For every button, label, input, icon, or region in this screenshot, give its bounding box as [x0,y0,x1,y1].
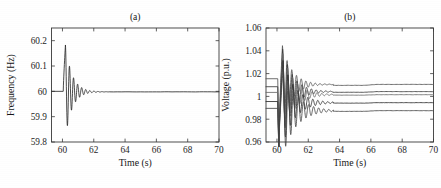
panel-b: (b) 606264666870 0.960.9811.021.041.06 T… [220,11,439,169]
panel-a: (a) 606264666870 59.859.96060.160.2 Time… [5,11,225,169]
y-tick-label: 1 [257,92,262,102]
y-tick-label: 60.2 [31,36,48,46]
x-tick-label: 60 [272,145,282,155]
panel-a-label: (a) [130,11,141,23]
x-tick-label: 64 [335,145,345,155]
panel-b-x-tick-labels: 606264666870 [272,145,438,155]
panel-a-x-axis-title: Time (s) [119,157,152,169]
y-tick-label: 60 [38,87,48,97]
x-tick-label: 66 [152,145,162,155]
figure-two-panel-transient-plots: (a) 606264666870 59.859.96060.160.2 Time… [0,0,441,188]
panel-a-x-ticks [62,28,219,142]
y-tick-label: 0.98 [245,115,262,125]
x-tick-label: 60 [58,145,68,155]
panel-b-x-axis-title: Time (s) [333,157,366,169]
y-tick-label: 1.02 [245,69,262,79]
panel-b-y-tick-labels: 0.960.9811.021.041.06 [245,23,262,147]
x-tick-label: 68 [398,145,408,155]
y-tick-label: 60.1 [31,61,48,71]
y-tick-label: 59.8 [31,137,48,147]
x-tick-label: 70 [214,145,224,155]
panel-b-label: (b) [344,11,355,23]
x-tick-label: 68 [183,145,193,155]
x-tick-label: 64 [120,145,130,155]
y-tick-label: 1.06 [245,23,262,33]
data-trace [52,45,220,126]
panel-a-x-tick-labels: 606264666870 [58,145,224,155]
x-tick-label: 70 [429,145,439,155]
panel-a-y-axis-title: Frequency (Hz) [5,54,17,116]
x-tick-label: 62 [89,145,99,155]
x-tick-label: 62 [304,145,314,155]
y-tick-label: 59.9 [31,112,48,122]
y-tick-label: 1.04 [245,46,262,56]
panel-a-y-tick-labels: 59.859.96060.160.2 [31,36,48,147]
panel-a-data-traces [52,45,220,126]
panel-b-data-traces [266,46,434,147]
panel-b-y-axis-title: Voltage (p.u.) [220,58,232,111]
x-tick-label: 66 [366,145,376,155]
panel-a-axes-frame [52,28,220,142]
figure-canvas: (a) 606264666870 59.859.96060.160.2 Time… [0,0,441,188]
y-tick-label: 0.96 [245,137,262,147]
